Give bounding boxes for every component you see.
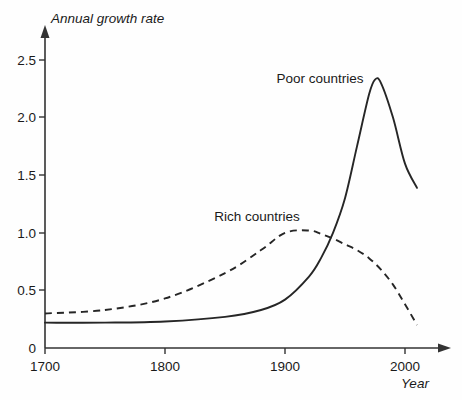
y-tick-label-1.0: 1.0 bbox=[17, 226, 36, 241]
x-tick-label-1800: 1800 bbox=[150, 359, 180, 374]
y-tick-label-0: 0 bbox=[28, 341, 36, 356]
y-tick-label-1.5: 1.5 bbox=[17, 168, 36, 183]
growth-rate-line-chart: 2.5 2.0 1.5 1.0 0.5 0 1700 1800 1900 200… bbox=[0, 0, 462, 400]
series-label-rich-countries: Rich countries bbox=[214, 209, 300, 224]
series-line-rich-countries bbox=[45, 230, 417, 325]
x-tick-label-2000: 2000 bbox=[390, 359, 420, 374]
y-tick-label-0.5: 0.5 bbox=[17, 283, 36, 298]
y-tick-label-2.5: 2.5 bbox=[17, 53, 36, 68]
x-axis-title: Year bbox=[401, 376, 429, 391]
y-axis-arrowhead bbox=[41, 25, 50, 38]
y-axis-title: Annual growth rate bbox=[50, 11, 164, 26]
series-line-poor-countries bbox=[45, 78, 417, 323]
x-tick-label-1700: 1700 bbox=[30, 359, 60, 374]
series-label-poor-countries: Poor countries bbox=[276, 71, 363, 86]
x-tick-label-1900: 1900 bbox=[270, 359, 300, 374]
y-tick-label-2.0: 2.0 bbox=[17, 110, 36, 125]
chart-container: 2.5 2.0 1.5 1.0 0.5 0 1700 1800 1900 200… bbox=[0, 0, 462, 400]
x-axis-arrowhead bbox=[438, 344, 451, 353]
